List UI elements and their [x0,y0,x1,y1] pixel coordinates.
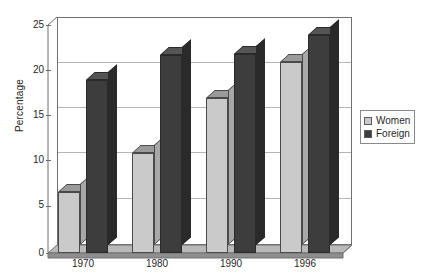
y-tick-label-15: 15 [22,110,44,120]
bar-front-face [308,35,330,253]
chart-legend: Women Foreign [360,110,415,144]
x-tick-label-1970: 1970 [60,258,106,269]
y-tick-label-0: 0 [22,248,44,258]
bar-front-face [58,192,80,253]
legend-label-women: Women [376,115,410,126]
y-tick-label-25: 25 [22,20,44,30]
y-tick-mark-15 [46,115,51,116]
y-tick-label-5: 5 [22,200,44,210]
y-tick-mark-25 [46,25,51,26]
y-tick-mark-5 [46,206,51,207]
bar-women-1970[interactable] [58,192,80,253]
bar-side-face [182,39,191,245]
x-tick-label-1990: 1990 [208,258,254,269]
bar-front-face [206,98,228,253]
x-tick-label-1996: 1996 [282,258,328,269]
bar-foreign-1996[interactable] [308,35,330,253]
legend-swatch-women-icon [364,117,372,125]
bar-foreign-1970[interactable] [86,80,108,253]
bar-women-1996[interactable] [280,62,302,253]
y-tick-mark-10 [46,160,51,161]
y-tick-mark-20 [46,70,51,71]
bar-side-face [330,19,339,245]
bar-side-face [108,64,117,245]
bar-front-face [86,80,108,253]
bar-women-1990[interactable] [206,98,228,253]
bar-front-face [132,153,154,253]
bar-foreign-1990[interactable] [234,54,256,253]
legend-item-women[interactable]: Women [364,114,410,127]
y-tick-mark-0 [46,253,51,254]
bar-foreign-1980[interactable] [160,55,182,253]
y-tick-label-10: 10 [22,155,44,165]
legend-swatch-foreign-icon [364,130,372,138]
legend-label-foreign: Foreign [376,128,410,139]
y-tick-label-20: 20 [22,65,44,75]
bar-front-face [160,55,182,253]
legend-item-foreign[interactable]: Foreign [364,127,410,140]
bar-side-face [256,38,265,245]
chart-container: Percentage 25 20 15 10 5 0 [0,0,429,280]
bar-front-face [234,54,256,253]
bar-front-face [280,62,302,253]
x-tick-label-1980: 1980 [134,258,180,269]
bar-women-1980[interactable] [132,153,154,253]
